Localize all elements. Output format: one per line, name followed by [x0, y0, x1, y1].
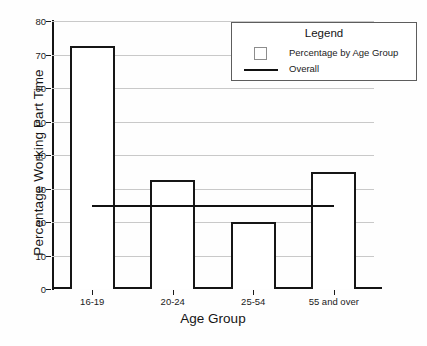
- legend-entry-overall: Overall: [240, 62, 412, 77]
- y-axis-tick-mark: [46, 222, 51, 223]
- x-axis-tick-mark: [92, 290, 93, 295]
- x-axis-tick-label: 25-54: [241, 296, 265, 307]
- y-axis-tick-label: 0: [18, 284, 46, 295]
- y-axis-tick-mark: [46, 189, 51, 190]
- legend-title: Legend: [232, 27, 416, 39]
- overall-reference-line: [92, 205, 334, 207]
- x-axis-tick-label: 20-24: [161, 296, 185, 307]
- y-axis-tick-mark: [46, 256, 51, 257]
- legend-entry-bars: Percentage by Age Group: [240, 46, 412, 61]
- solid-line-swatch-icon: [244, 69, 278, 71]
- bar: [311, 172, 356, 289]
- y-axis-tick-labels: 01020304050607080: [16, 0, 46, 346]
- bar: [150, 180, 195, 289]
- y-axis-tick-label: 50: [18, 116, 46, 127]
- x-axis-tick-mark: [173, 290, 174, 295]
- legend: Legend Percentage by Age Group Overall: [231, 22, 417, 81]
- y-axis-tick-mark: [46, 21, 51, 22]
- y-axis-tick-mark: [46, 155, 51, 156]
- y-axis-tick-label: 30: [18, 183, 46, 194]
- bar-chart-figure: Percentage Working Part Time 01020304050…: [0, 0, 427, 346]
- y-axis-tick-label: 40: [18, 150, 46, 161]
- x-axis-tick-label: 16-19: [80, 296, 104, 307]
- legend-entry-label: Overall: [289, 63, 319, 74]
- y-axis-tick-mark: [46, 289, 51, 290]
- y-axis-tick-mark: [46, 55, 51, 56]
- open-square-swatch-icon: [254, 47, 267, 60]
- bar: [70, 46, 115, 289]
- y-axis-tick-label: 20: [18, 217, 46, 228]
- x-axis-title: Age Group: [52, 311, 374, 326]
- y-axis-tick-label: 10: [18, 250, 46, 261]
- x-axis-tick-mark: [334, 290, 335, 295]
- y-axis-tick-label: 70: [18, 49, 46, 60]
- y-axis-tick-label: 80: [18, 16, 46, 27]
- x-axis-tick-mark: [253, 290, 254, 295]
- x-axis-tick-label: 55 and over: [309, 296, 359, 307]
- bar: [231, 222, 276, 289]
- y-axis-tick-mark: [46, 88, 51, 89]
- y-axis-tick-mark: [46, 122, 51, 123]
- legend-entry-label: Percentage by Age Group: [289, 47, 398, 58]
- y-axis-tick-label: 60: [18, 83, 46, 94]
